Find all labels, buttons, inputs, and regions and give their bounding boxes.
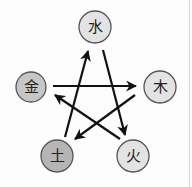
- diagram-svg: 水木火土金: [0, 0, 192, 187]
- node-metal: 金: [16, 72, 46, 102]
- node-fire: 火: [117, 140, 149, 172]
- node-label: 火: [126, 147, 141, 165]
- arrows: [53, 50, 136, 139]
- node-label: 金: [24, 78, 39, 96]
- node-earth: 土: [41, 140, 73, 172]
- node-water: 水: [79, 11, 111, 43]
- arrow-earth-to-water: [65, 51, 88, 137]
- node-label: 木: [153, 78, 168, 96]
- arrow-water-to-fire: [103, 50, 125, 135]
- node-wood: 木: [144, 71, 176, 103]
- element-nodes: 水木火土金: [16, 11, 176, 172]
- arrow-wood-to-earth: [75, 95, 135, 139]
- node-label: 土: [50, 147, 65, 165]
- five-elements-diagram: 水木火土金: [0, 0, 192, 187]
- arrow-fire-to-metal: [55, 95, 120, 139]
- node-label: 水: [88, 18, 103, 36]
